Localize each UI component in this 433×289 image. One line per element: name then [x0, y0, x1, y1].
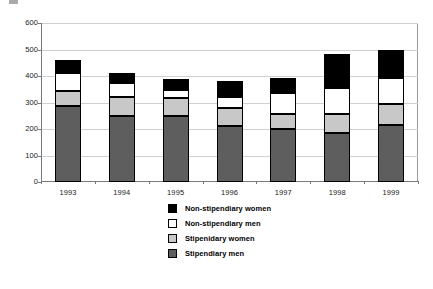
white-square-swatch	[168, 219, 177, 228]
legend-item-label: Stipendiary men	[185, 249, 244, 258]
bar-segment	[163, 98, 189, 116]
bar-group-1995	[163, 23, 189, 182]
legend-item-label: Stipenidary women	[185, 234, 255, 243]
bar-segment	[324, 88, 350, 114]
y-tick-label-0: 0	[4, 178, 38, 186]
legend-item: Stipendiary men	[168, 246, 348, 261]
bar-segment	[55, 73, 81, 90]
y-tick-label-100: 100	[4, 152, 38, 160]
black-square-swatch	[168, 204, 177, 213]
bar-segment	[55, 106, 81, 182]
bar-segment	[217, 126, 243, 182]
bar-segment	[324, 114, 350, 133]
legend-item: Non-stipendiary women	[168, 201, 348, 216]
dark-gray-square-swatch	[168, 249, 177, 258]
bar-group-1994	[109, 23, 135, 182]
bar-segment	[378, 104, 404, 125]
bar-segment	[55, 60, 81, 73]
bar-segment	[378, 50, 404, 78]
bar-segment	[270, 129, 296, 182]
bar-group-1996	[217, 23, 243, 182]
legend-item-label: Non-stipendiary men	[185, 219, 261, 228]
y-tick-label-300: 300	[4, 99, 38, 107]
bar-segment	[109, 73, 135, 83]
chart-legend: Non-stipendiary womenNon-stipendiary men…	[168, 201, 348, 261]
x-tick-mark-6	[364, 181, 365, 184]
x-tick-mark-4	[256, 181, 257, 184]
bar-group-1993	[55, 23, 81, 182]
bar-segment	[324, 133, 350, 182]
x-tick-mark-2	[149, 181, 150, 184]
bar-group-1997	[270, 23, 296, 182]
bar-segment	[55, 91, 81, 106]
bar-segment	[163, 90, 189, 98]
x-tick-label-1999: 1999	[369, 188, 413, 197]
bar-segment	[109, 116, 135, 182]
bar-segment	[163, 79, 189, 90]
y-tick-label-200: 200	[4, 125, 38, 133]
x-tick-mark-5	[310, 181, 311, 184]
legend-item-label: Non-stipendiary women	[185, 204, 271, 213]
bar-segment	[270, 78, 296, 93]
x-tick-mark-1	[95, 181, 96, 184]
bar-group-1998	[324, 23, 350, 182]
x-tick-label-1997: 1997	[261, 188, 305, 197]
x-tick-label-1995: 1995	[154, 188, 198, 197]
y-tick-label-600: 600	[4, 19, 38, 27]
light-gray-square-swatch	[168, 234, 177, 243]
bars-layer	[41, 23, 418, 182]
x-tick-mark-3	[203, 181, 204, 184]
bar-segment	[163, 116, 189, 182]
x-tick-label-1996: 1996	[208, 188, 252, 197]
bar-group-1999	[378, 23, 404, 182]
x-tick-mark-end	[418, 181, 419, 184]
bar-segment	[217, 97, 243, 108]
bar-segment	[378, 125, 404, 182]
legend-item: Non-stipendiary men	[168, 216, 348, 231]
bar-segment	[217, 81, 243, 97]
bar-segment	[270, 93, 296, 114]
y-tick-label-500: 500	[4, 46, 38, 54]
bar-segment	[217, 108, 243, 126]
bar-segment	[324, 54, 350, 88]
bar-segment	[270, 114, 296, 129]
x-tick-label-1993: 1993	[46, 188, 90, 197]
bar-segment	[109, 97, 135, 116]
legend-item: Stipenidary women	[168, 231, 348, 246]
y-tick-label-400: 400	[4, 72, 38, 80]
y-axis-tick-labels: 0100200300400500600	[0, 0, 38, 289]
bar-segment	[378, 78, 404, 104]
x-tick-label-1998: 1998	[315, 188, 359, 197]
bar-segment	[109, 83, 135, 96]
x-tick-label-1994: 1994	[100, 188, 144, 197]
x-tick-mark-0	[41, 181, 42, 184]
